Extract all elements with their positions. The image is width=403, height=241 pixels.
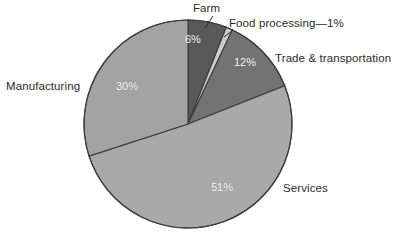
value-label-farm: 6% bbox=[185, 33, 201, 45]
label-food-processing: Food processing—1% bbox=[229, 17, 344, 29]
value-label-services: 51% bbox=[211, 181, 233, 193]
pie-chart-canvas bbox=[0, 0, 403, 241]
pie-chart-figure: Farm Food processing—1% Trade & transpor… bbox=[0, 0, 403, 241]
value-label-manufacturing: 30% bbox=[116, 80, 138, 92]
label-manufacturing: Manufacturing bbox=[6, 80, 80, 92]
value-label-trade-transportation: 12% bbox=[234, 56, 256, 68]
label-services: Services bbox=[283, 182, 328, 194]
label-farm: Farm bbox=[193, 2, 220, 14]
label-trade-transportation: Trade & transportation bbox=[275, 52, 391, 64]
